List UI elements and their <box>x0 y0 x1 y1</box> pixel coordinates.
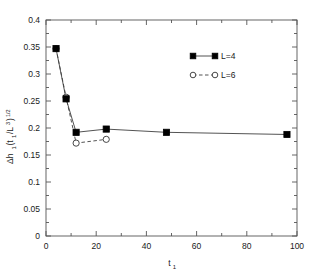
y-axis-title-part: (t <box>5 140 15 146</box>
y-tick-label: 0.3 <box>28 69 40 79</box>
chart-figure: 02040608010000.050.10.150.20.250.30.350.… <box>0 0 325 271</box>
y-axis-title-part: /L <box>5 127 15 134</box>
y-tick-label: 0.25 <box>23 96 40 106</box>
data-point-filled-square <box>284 131 290 137</box>
x-axis-title-base: t <box>168 258 171 268</box>
y-tick-label: 0.2 <box>28 123 40 133</box>
y-axis-title-part: 3 <box>5 122 11 125</box>
x-axis: 020406080100 <box>44 20 305 251</box>
y-axis-title: Δh1(t1/L3)1/2 <box>5 109 17 164</box>
y-tick-label: 0.05 <box>23 204 40 214</box>
legend-marker-filled-square <box>190 53 196 59</box>
data-point-filled-square <box>73 129 79 135</box>
y-tick-label: 0.4 <box>28 15 40 25</box>
chart-svg: 02040608010000.050.10.150.20.250.30.350.… <box>0 0 325 271</box>
legend-label: L=4 <box>221 51 236 61</box>
x-tick-label: 80 <box>242 241 252 251</box>
y-tick-label: 0.15 <box>23 150 40 160</box>
y-tick-label: 0 <box>35 231 40 241</box>
x-axis-title: t1 <box>168 258 177 270</box>
data-point-open-circle <box>103 136 109 142</box>
y-axis-title-part: Δh <box>5 153 15 164</box>
series-markers <box>53 46 109 147</box>
y-axis: 00.050.10.150.20.250.30.350.4 <box>23 15 297 241</box>
legend-marker-open-circle <box>212 72 218 78</box>
y-axis-title-part: ) <box>5 118 15 121</box>
data-point-filled-square <box>103 126 109 132</box>
x-tick-label: 60 <box>192 241 202 251</box>
legend-label: L=6 <box>221 70 236 80</box>
plot-frame <box>46 20 297 236</box>
x-tick-label: 40 <box>142 241 152 251</box>
legend-marker-open-circle <box>190 72 196 78</box>
legend-marker-filled-square <box>212 53 218 59</box>
y-axis-title-part: 1/2 <box>5 109 11 117</box>
data-point-open-circle <box>73 140 79 146</box>
x-tick-label: 100 <box>290 241 304 251</box>
series-l-4 <box>56 49 287 135</box>
series-line <box>56 49 287 135</box>
x-tick-label: 0 <box>44 241 49 251</box>
x-axis-title-sub: 1 <box>173 264 177 270</box>
data-point-filled-square <box>53 46 59 52</box>
y-tick-label: 0.1 <box>28 177 40 187</box>
series-markers <box>53 46 290 138</box>
data-point-filled-square <box>163 129 169 135</box>
legend: L=4L=6 <box>190 51 235 80</box>
y-tick-label: 0.35 <box>23 42 40 52</box>
data-point-filled-square <box>63 96 69 102</box>
x-tick-label: 20 <box>91 241 101 251</box>
